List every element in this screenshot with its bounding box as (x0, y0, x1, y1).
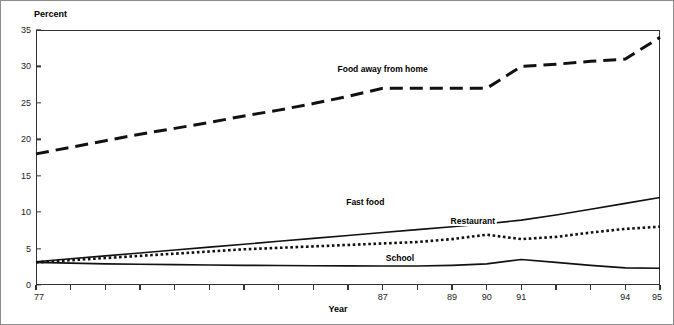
x-tick-mark (313, 285, 314, 290)
series-line (36, 37, 660, 154)
x-tick-mark (451, 285, 452, 290)
series-label: Food away from home (336, 64, 430, 74)
x-tick-mark (347, 285, 348, 290)
x-tick-mark (382, 285, 383, 290)
y-tick-label: 35 (9, 25, 31, 35)
y-axis-title: Percent (34, 9, 67, 19)
series-line (36, 260, 660, 269)
y-tick-mark (36, 66, 41, 67)
y-tick-label: 15 (9, 171, 31, 181)
x-tick-mark (139, 285, 140, 290)
y-tick-label: 5 (9, 244, 31, 254)
x-tick-label: 94 (620, 292, 630, 302)
x-tick-label: 95 (652, 292, 662, 302)
x-tick-label: 90 (482, 292, 492, 302)
x-tick-mark (243, 285, 244, 290)
x-tick-mark (174, 285, 175, 290)
x-tick-mark (590, 285, 591, 290)
x-tick-mark (659, 285, 660, 290)
series-line (36, 227, 660, 263)
y-tick-mark (36, 248, 41, 249)
y-tick-label: 20 (9, 134, 31, 144)
y-tick-mark (36, 211, 41, 212)
x-tick-mark (417, 285, 418, 290)
x-tick-mark (555, 285, 556, 290)
x-tick-mark (486, 285, 487, 290)
series-label: School (384, 253, 416, 263)
y-tick-mark (36, 284, 41, 285)
series-label: Restaurant (449, 216, 497, 226)
x-tick-label: 89 (447, 292, 457, 302)
y-tick-mark (36, 139, 41, 140)
x-tick-mark (209, 285, 210, 290)
y-tick-label: 0 (9, 280, 31, 290)
x-tick-mark (278, 285, 279, 290)
y-tick-label: 25 (9, 98, 31, 108)
y-tick-label: 30 (9, 61, 31, 71)
y-tick-mark (36, 175, 41, 176)
y-tick-mark (36, 102, 41, 103)
x-tick-mark (521, 285, 522, 290)
x-tick-mark (70, 285, 71, 290)
x-tick-label: 77 (34, 292, 44, 302)
chart-figure: Percent 05101520253035 77878990919495 Fo… (0, 0, 674, 325)
x-tick-mark (35, 285, 36, 290)
x-axis-title: Year (1, 304, 674, 314)
x-tick-label: 91 (516, 292, 526, 302)
y-tick-mark (36, 29, 41, 30)
x-tick-label: 87 (378, 292, 388, 302)
series-label: Fast food (344, 197, 386, 207)
x-tick-mark (105, 285, 106, 290)
x-tick-mark (625, 285, 626, 290)
y-tick-label: 10 (9, 207, 31, 217)
